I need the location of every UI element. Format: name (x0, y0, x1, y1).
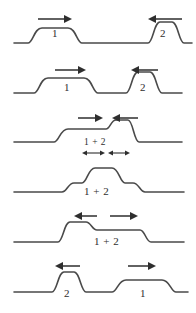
wave-superposition-figure: 1 2 1 2 (0, 0, 196, 313)
panel-3-waveform (0, 104, 196, 160)
panel-4-waveform (0, 156, 196, 206)
panel-6-waveform (0, 258, 196, 313)
panel-1: 1 2 (0, 0, 196, 50)
arrow-right-pulse-1 (78, 114, 103, 122)
arrow-right-pulse-1 (110, 212, 138, 220)
panel-3: 1 + 2 (0, 104, 196, 160)
measure-pulse-2 (108, 151, 130, 156)
label-sum-pulses: 1 + 2 (94, 236, 119, 247)
label-pulse-2: 2 (64, 288, 70, 299)
arrow-right-pulse-1 (55, 66, 86, 74)
label-sum-pulses: 1 + 2 (84, 138, 106, 148)
panel-5-waveform (0, 206, 196, 258)
panel-5: 1 + 2 (0, 206, 196, 258)
label-pulse-1: 1 (140, 288, 146, 299)
arrow-right-pulse-1 (38, 15, 72, 23)
panel-1-waveform (0, 0, 196, 50)
pulse-trace (14, 272, 188, 292)
arrow-left-pulse-2 (55, 262, 80, 270)
label-pulse-2: 2 (140, 82, 146, 93)
label-sum-pulses: 1 + 2 (84, 186, 109, 197)
panel-2-waveform (0, 52, 196, 102)
arrow-right-pulse-1 (128, 262, 156, 270)
panel-6: 2 1 (0, 258, 196, 313)
pulse-trace (14, 72, 182, 93)
label-pulse-1: 1 (64, 82, 70, 93)
label-pulse-2: 2 (160, 28, 166, 39)
panel-4: 1 + 2 (0, 156, 196, 206)
arrow-left-pulse-2 (74, 212, 97, 220)
panel-2: 1 2 (0, 52, 196, 102)
measure-pulse-1 (82, 151, 105, 156)
label-pulse-1: 1 (52, 28, 58, 39)
